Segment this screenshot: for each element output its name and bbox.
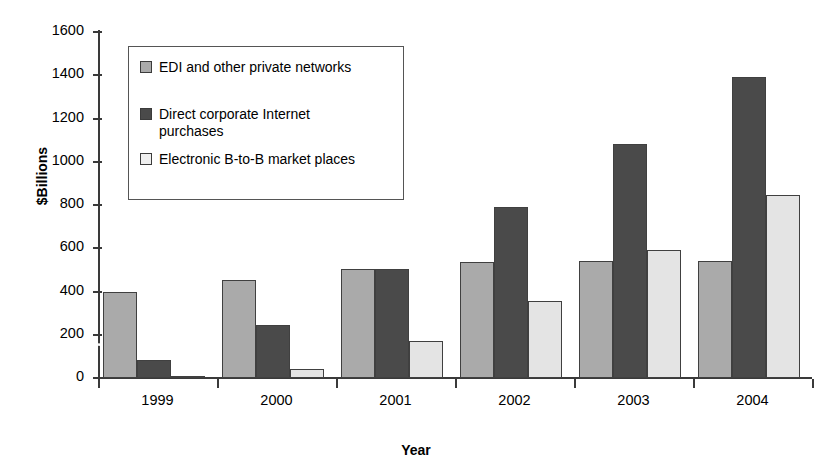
y-tick-label-1600: 1600 bbox=[36, 22, 84, 38]
bar-2002-series-1[interactable] bbox=[494, 207, 528, 378]
legend: EDI and other private networks Direct co… bbox=[128, 46, 404, 200]
bar-chart: $Billions Year 1600140012001000800600400… bbox=[0, 0, 832, 476]
bar-2000-series-2[interactable] bbox=[290, 369, 324, 378]
bar-2001-series-2[interactable] bbox=[409, 341, 443, 378]
legend-item-1[interactable]: Direct corporate Internet purchases bbox=[140, 106, 310, 140]
bar-2002-series-2[interactable] bbox=[528, 301, 562, 378]
y-tick-label-1200: 1200 bbox=[36, 109, 84, 125]
x-tick-1999 bbox=[98, 379, 100, 388]
x-tick-label-2000: 2000 bbox=[217, 392, 337, 408]
legend-label-0: EDI and other private networks bbox=[159, 59, 351, 76]
bar-2000-series-0[interactable] bbox=[222, 280, 256, 378]
x-tick-label-2004: 2004 bbox=[693, 392, 813, 408]
bar-1999-series-2[interactable] bbox=[171, 376, 205, 378]
bar-2004-series-2[interactable] bbox=[766, 195, 800, 378]
y-tick-label-1000: 1000 bbox=[36, 152, 84, 168]
bar-group-2003 bbox=[574, 32, 693, 378]
bar-2001-series-0[interactable] bbox=[341, 269, 375, 378]
x-tick-2004 bbox=[693, 379, 695, 388]
bar-2004-series-1[interactable] bbox=[732, 77, 766, 378]
y-tick-label-200: 200 bbox=[36, 325, 84, 341]
x-tick-label-1999: 1999 bbox=[98, 392, 218, 408]
x-tick-2001 bbox=[336, 379, 338, 388]
x-tick-label-2003: 2003 bbox=[574, 392, 694, 408]
bar-group-2002 bbox=[455, 32, 574, 378]
bar-2003-series-0[interactable] bbox=[579, 261, 613, 378]
x-tick-end bbox=[812, 379, 814, 388]
x-tick-2002 bbox=[455, 379, 457, 388]
bar-2004-series-0[interactable] bbox=[698, 261, 732, 378]
x-tick-2003 bbox=[574, 379, 576, 388]
y-tick-label-800: 800 bbox=[36, 195, 84, 211]
bar-1999-series-1[interactable] bbox=[137, 360, 171, 378]
y-axis-title: $Billions bbox=[34, 116, 50, 236]
x-tick-2000 bbox=[217, 379, 219, 388]
bar-2001-series-1[interactable] bbox=[375, 269, 409, 378]
bar-1999-series-0[interactable] bbox=[103, 292, 137, 379]
x-tick-label-2001: 2001 bbox=[336, 392, 456, 408]
legend-swatch-direct-icon bbox=[140, 108, 152, 120]
legend-swatch-edi-icon bbox=[140, 61, 152, 73]
bar-2002-series-0[interactable] bbox=[460, 262, 494, 378]
x-tick-label-2002: 2002 bbox=[455, 392, 575, 408]
y-tick-label-0: 0 bbox=[36, 368, 84, 384]
legend-swatch-marketplaces-icon bbox=[140, 153, 152, 165]
legend-label-1: Direct corporate Internet purchases bbox=[159, 106, 310, 140]
legend-item-0[interactable]: EDI and other private networks bbox=[140, 59, 351, 76]
x-axis-title: Year bbox=[0, 442, 832, 458]
legend-item-2[interactable]: Electronic B-to-B market places bbox=[140, 151, 355, 168]
y-tick-label-600: 600 bbox=[36, 238, 84, 254]
bar-2003-series-2[interactable] bbox=[647, 250, 681, 378]
y-tick-label-1400: 1400 bbox=[36, 65, 84, 81]
y-tick-label-400: 400 bbox=[36, 282, 84, 298]
legend-label-2: Electronic B-to-B market places bbox=[159, 151, 355, 168]
bar-2000-series-1[interactable] bbox=[256, 325, 290, 378]
bar-group-2004 bbox=[693, 32, 812, 378]
bar-2003-series-1[interactable] bbox=[613, 144, 647, 378]
